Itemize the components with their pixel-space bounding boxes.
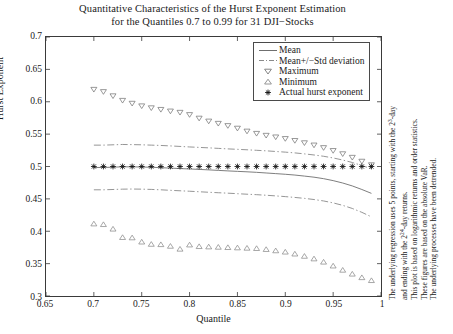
legend-dash-dot-line-icon bbox=[257, 56, 279, 65]
figure-container: Quantitative Characteristics of the Hurs… bbox=[0, 0, 453, 334]
annotation-line: and ending with the 224-day returns. bbox=[398, 30, 410, 300]
y-tick-label: 0.7 bbox=[30, 31, 42, 41]
annotation-text-a: The underlying regression uses 5 points,… bbox=[388, 122, 397, 300]
legend: Mean Mean+/−Std deviation Maximum Minimu… bbox=[253, 42, 370, 101]
legend-item: Actual hurst exponent bbox=[257, 87, 364, 98]
annotation-line: This plot is based on logarithmic return… bbox=[410, 30, 420, 300]
chart-title: Quantitative Characteristics of the Hurs… bbox=[40, 2, 385, 28]
legend-label: Actual hurst exponent bbox=[279, 87, 363, 98]
legend-label: Minimum bbox=[279, 77, 317, 88]
annotation-text-b: -day returns. bbox=[401, 191, 410, 229]
annotation-line: The underlying regression uses 5 points,… bbox=[386, 30, 398, 300]
x-tick-label: 0.65 bbox=[37, 299, 54, 309]
y-tick-label: 0.65 bbox=[25, 64, 42, 74]
x-axis-label: Quantile bbox=[45, 313, 382, 324]
legend-label: Maximum bbox=[279, 66, 319, 77]
legend-label: Mean bbox=[279, 45, 301, 56]
legend-solid-line-icon bbox=[257, 46, 279, 55]
annotation-sup: 24 bbox=[399, 229, 405, 235]
chart-title-line-2: for the Quantiles 0.7 to 0.99 for 31 DJI… bbox=[40, 15, 385, 28]
series-mean-std-deviation bbox=[94, 144, 372, 168]
annotation-text-b: -day bbox=[388, 106, 397, 119]
legend-up-triangle-icon bbox=[257, 77, 279, 86]
x-tick-label: 0.95 bbox=[326, 299, 343, 309]
y-tick-label: 0.55 bbox=[25, 129, 42, 139]
y-axis-ticks: 0.7 0.65 0.6 0.55 0.5 0.45 0.4 0.35 0.3 bbox=[0, 36, 42, 297]
annotation-text-a: and ending with the 2 bbox=[401, 235, 410, 300]
annotation-sup: 3 bbox=[387, 119, 393, 122]
x-tick-label: 0.8 bbox=[183, 299, 195, 309]
annotation-line: The underlying processes have been detre… bbox=[429, 30, 439, 300]
y-tick-label: 0.35 bbox=[25, 259, 42, 269]
legend-down-triangle-icon bbox=[257, 67, 279, 76]
series-minimum bbox=[91, 221, 375, 282]
x-tick-label: 0.9 bbox=[280, 299, 292, 309]
legend-item: Maximum bbox=[257, 66, 364, 77]
series-actual-hurst-exponent bbox=[91, 164, 374, 170]
legend-item: Minimum bbox=[257, 77, 364, 88]
series-mean-std-deviation bbox=[94, 189, 372, 217]
annotation-notes: The underlying regression uses 5 points,… bbox=[386, 30, 439, 300]
x-axis-ticks: 0.65 0.7 0.75 0.8 0.85 0.9 0.95 1 bbox=[45, 299, 382, 313]
legend-asterisk-icon bbox=[257, 88, 279, 97]
y-tick-label: 0.45 bbox=[25, 194, 42, 204]
x-tick-label: 0.85 bbox=[229, 299, 246, 309]
y-tick-label: 0.5 bbox=[30, 162, 42, 172]
legend-item: Mean+/−Std deviation bbox=[257, 56, 364, 67]
x-tick-label: 1 bbox=[380, 299, 385, 309]
legend-item: Mean bbox=[257, 45, 364, 56]
y-tick-label: 0.4 bbox=[30, 227, 42, 237]
x-tick-label: 0.7 bbox=[87, 299, 99, 309]
y-tick-label: 0.6 bbox=[30, 96, 42, 106]
x-tick-label: 0.75 bbox=[133, 299, 150, 309]
annotation-line: These figures are based on the absolute … bbox=[420, 30, 430, 300]
chart-title-line-1: Quantitative Characteristics of the Hurs… bbox=[40, 2, 385, 15]
legend-label: Mean+/−Std deviation bbox=[279, 56, 364, 67]
